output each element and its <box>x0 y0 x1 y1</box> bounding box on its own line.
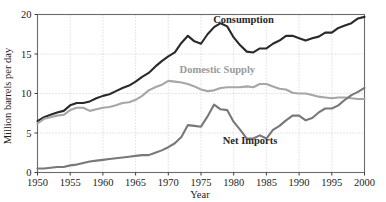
x-tick-label: 1965 <box>125 177 146 188</box>
x-tick-label: 1995 <box>321 177 342 188</box>
x-axis-title: Year <box>190 189 210 200</box>
x-tick-label: 1955 <box>60 177 81 188</box>
x-tick-label: 1980 <box>223 177 244 188</box>
x-tick-label: 1985 <box>256 177 277 188</box>
series-label-consumption: Consumption <box>213 14 274 25</box>
y-tick-label: 15 <box>21 49 32 60</box>
y-tick-labels: 05101520 <box>21 9 32 178</box>
series-label-domestic-supply: Domestic Supply <box>180 64 256 75</box>
x-tick-label: 2000 <box>354 177 375 188</box>
y-axis-title: Million barrels per day <box>2 47 13 144</box>
series-label-net-imports: Net Imports <box>223 135 278 146</box>
x-tick-label: 1960 <box>92 177 113 188</box>
x-tick-labels: 1950195519601965197019751980198519901995… <box>27 177 375 188</box>
y-tick-label: 20 <box>21 9 32 20</box>
y-tick-label: 5 <box>26 128 31 139</box>
chart-figure: 1950195519601965197019751980198519901995… <box>0 0 386 202</box>
x-tick-label: 1975 <box>191 177 212 188</box>
energy-line-chart: 1950195519601965197019751980198519901995… <box>0 0 386 202</box>
x-tick-label: 1990 <box>289 177 310 188</box>
y-tick-label: 10 <box>21 88 32 99</box>
x-tick-label: 1970 <box>158 177 179 188</box>
y-tick-label: 0 <box>26 167 31 178</box>
x-tick-label: 1950 <box>27 177 48 188</box>
